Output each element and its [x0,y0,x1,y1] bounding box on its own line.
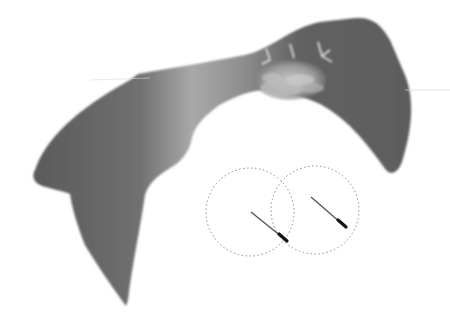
needle-left [251,212,287,241]
body-shape [33,18,411,306]
needle-right [311,197,346,227]
target-circle-right [271,166,359,254]
diagram-canvas [0,0,450,326]
target-circle-left [206,168,294,256]
